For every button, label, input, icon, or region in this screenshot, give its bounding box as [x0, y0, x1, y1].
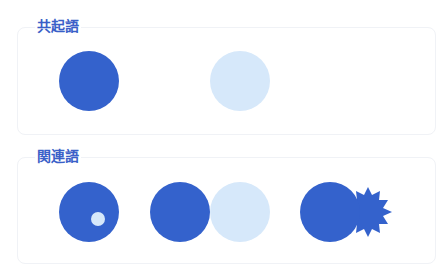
dark-circle-container — [59, 182, 119, 242]
small-light-circle — [91, 212, 105, 226]
light-circle — [210, 51, 270, 111]
dark-circle-adjacent — [150, 182, 210, 242]
dark-circle — [59, 51, 119, 111]
light-circle-adjacent — [210, 182, 270, 242]
diagram-shapes — [0, 0, 447, 280]
dark-circle-starburst — [300, 182, 360, 242]
